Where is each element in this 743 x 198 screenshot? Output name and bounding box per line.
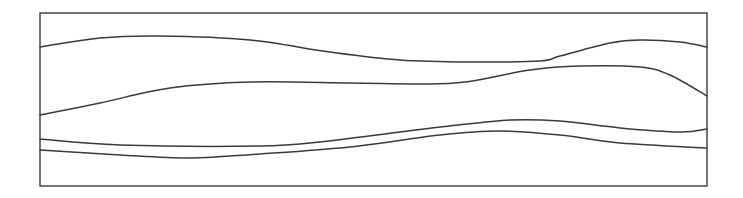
diagram-canvas	[0, 0, 743, 198]
curve-1	[40, 36, 707, 62]
curve-2	[40, 66, 707, 115]
diagram-frame	[40, 13, 707, 186]
